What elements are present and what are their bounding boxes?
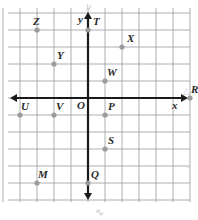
plot-point-u [17, 112, 22, 117]
point-label-m: M [38, 169, 48, 180]
plot-point-t [85, 27, 90, 32]
plot-point-q [85, 180, 90, 185]
faint-dot-mark: · [186, 162, 189, 172]
point-label-v: V [56, 101, 63, 112]
bottom-scribble-mark: ∿ [95, 206, 104, 218]
point-label-u: U [21, 101, 29, 112]
plot-point-x [119, 44, 124, 49]
plot-point-v [51, 112, 56, 117]
point-label-r: R [191, 84, 198, 95]
right-triangle-mark: △ [183, 86, 190, 96]
point-label-t: T [93, 16, 100, 27]
origin-label: O [77, 100, 85, 111]
point-label-w: W [107, 67, 117, 78]
top-scribble-mark: ∨ [83, 1, 93, 14]
plot-point-z [34, 27, 39, 32]
plot-point-m [34, 180, 39, 185]
plot-point-w [102, 78, 107, 83]
coordinate-plane: ∨∿△· [0, 0, 198, 220]
point-label-p: P [108, 101, 115, 112]
y-axis-label: y [78, 14, 83, 25]
point-label-q: Q [91, 169, 99, 180]
point-label-y: Y [57, 50, 64, 61]
x-axis-label: x [172, 100, 178, 111]
point-label-x: X [127, 33, 134, 44]
plot-point-r [187, 95, 192, 100]
point-label-z: Z [33, 16, 40, 27]
plot-point-s [102, 146, 107, 151]
point-label-s: S [108, 135, 114, 146]
plot-point-y [51, 61, 56, 66]
plot-point-p [102, 112, 107, 117]
